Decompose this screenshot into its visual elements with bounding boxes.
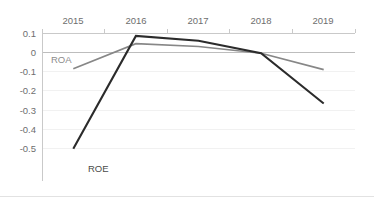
series-label-roa: ROA	[51, 54, 72, 65]
line-chart: 2015 2016 2017 2018 2019 0.1 0 -0.1 -0.2…	[0, 0, 374, 203]
x-label-2019: 2019	[312, 15, 333, 26]
y-label-0.1: 0.1	[23, 28, 36, 39]
chart-background	[0, 0, 374, 203]
y-label--0.4: -0.4	[20, 124, 36, 135]
series-label-roe: ROE	[88, 163, 109, 174]
y-label--0.3: -0.3	[20, 105, 36, 116]
x-label-2017: 2017	[187, 15, 208, 26]
chart-container: 2015 2016 2017 2018 2019 0.1 0 -0.1 -0.2…	[0, 0, 374, 203]
x-label-2015: 2015	[62, 15, 83, 26]
x-label-2018: 2018	[250, 15, 271, 26]
y-label--0.1: -0.1	[20, 66, 36, 77]
y-label-0: 0	[31, 47, 36, 58]
y-label--0.5: -0.5	[20, 143, 36, 154]
y-label--0.2: -0.2	[20, 85, 36, 96]
x-label-2016: 2016	[125, 15, 146, 26]
